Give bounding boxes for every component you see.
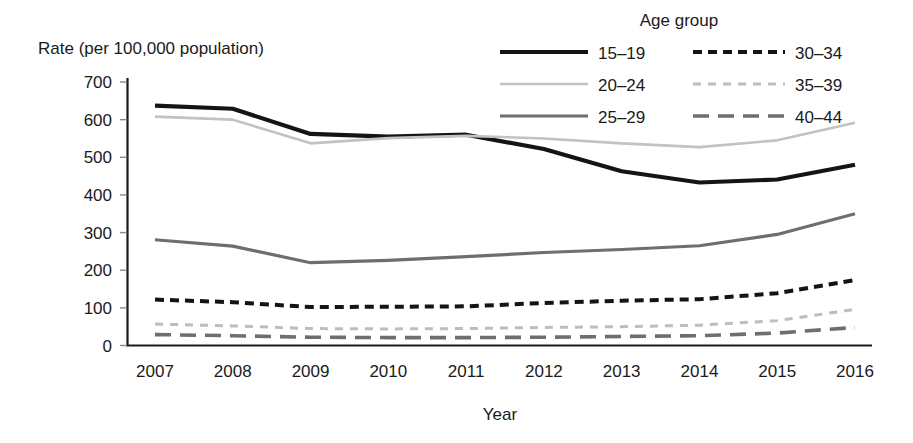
y-tick-label: 100 bbox=[84, 299, 112, 318]
line-chart-figure: Rate (per 100,000 population) 0100200300… bbox=[0, 0, 913, 443]
y-axis-title: Rate (per 100,000 population) bbox=[38, 39, 264, 58]
x-tick-label: 2008 bbox=[214, 362, 252, 381]
y-tick-label: 700 bbox=[84, 73, 112, 92]
axis-lines bbox=[128, 78, 873, 346]
y-tick-label: 400 bbox=[84, 186, 112, 205]
y-tick-label: 600 bbox=[84, 111, 112, 130]
y-tick-label: 0 bbox=[103, 337, 112, 356]
legend-title: Age group bbox=[640, 11, 718, 30]
x-tick-label: 2013 bbox=[603, 362, 641, 381]
x-tick-label: 2011 bbox=[448, 362, 485, 381]
x-axis-tick-labels: 2007200820092010201120122013201420152016 bbox=[136, 362, 874, 381]
x-tick-label: 2016 bbox=[836, 362, 874, 381]
legend-label-5: 40–44 bbox=[795, 108, 842, 127]
legend-label-3: 30–34 bbox=[795, 44, 842, 63]
y-tick-label: 200 bbox=[84, 261, 112, 280]
y-axis-tick-labels: 0100200300400500600700 bbox=[84, 73, 112, 356]
x-tick-label: 2012 bbox=[525, 362, 563, 381]
legend-entries: 15–1920–2425–2930–3435–3940–44 bbox=[500, 44, 842, 127]
x-tick-label: 2010 bbox=[369, 362, 407, 381]
x-tick-label: 2009 bbox=[292, 362, 330, 381]
y-tick-label: 300 bbox=[84, 224, 112, 243]
chart-canvas: Rate (per 100,000 population) 0100200300… bbox=[0, 0, 913, 443]
legend-label-0: 15–19 bbox=[598, 44, 645, 63]
series-line-2 bbox=[155, 214, 855, 263]
x-tick-label: 2014 bbox=[681, 362, 719, 381]
legend-label-4: 35–39 bbox=[795, 76, 842, 95]
series-layer bbox=[155, 106, 855, 338]
y-tick-label: 500 bbox=[84, 148, 112, 167]
legend-label-2: 25–29 bbox=[598, 108, 645, 127]
chart-legend: Age group 15–1920–2425–2930–3435–3940–44 bbox=[500, 11, 842, 127]
y-axis-ticks bbox=[120, 82, 127, 346]
series-line-3 bbox=[155, 280, 855, 307]
x-axis-title: Year bbox=[483, 405, 518, 424]
series-line-4 bbox=[155, 309, 855, 329]
x-tick-label: 2015 bbox=[758, 362, 796, 381]
legend-label-1: 20–24 bbox=[598, 76, 645, 95]
x-tick-label: 2007 bbox=[136, 362, 174, 381]
